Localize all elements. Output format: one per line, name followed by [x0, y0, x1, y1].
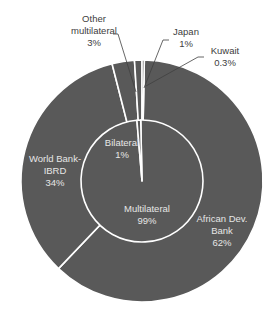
label-kuwait: Kuwait 0.3% [205, 45, 245, 69]
label-value: 62% [192, 237, 252, 249]
label-other-multilateral: Other multilateral 3% [64, 13, 124, 49]
label-japan: Japan 1% [168, 26, 204, 50]
label-text: Japan [168, 26, 204, 38]
label-value: 1% [100, 149, 144, 161]
label-value: 3% [64, 37, 124, 49]
label-african-dev-bank: African Dev. Bank 62% [192, 213, 252, 249]
label-bilateral: Bilateral 1% [100, 137, 144, 161]
label-value: 1% [168, 38, 204, 50]
label-text: multilateral [64, 25, 124, 37]
label-text: Kuwait [205, 45, 245, 57]
label-world-bank-ibrd: World Bank- IBRD 34% [27, 153, 83, 189]
label-value: 99% [117, 215, 177, 227]
label-value: 34% [27, 177, 83, 189]
label-text: Multilateral [117, 203, 177, 215]
label-text: IBRD [27, 165, 83, 177]
label-text: Other [64, 13, 124, 25]
label-text: African Dev. [192, 213, 252, 225]
label-value: 0.3% [205, 57, 245, 69]
label-text: Bilateral [100, 137, 144, 149]
label-text: World Bank- [27, 153, 83, 165]
label-text: Bank [192, 225, 252, 237]
label-multilateral: Multilateral 99% [117, 203, 177, 227]
